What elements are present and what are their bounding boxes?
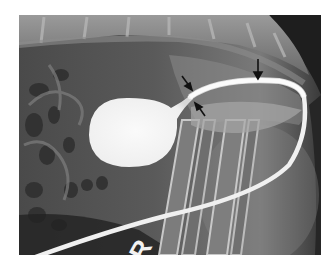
radiograph-image: R [19, 15, 321, 255]
radiograph-graphic [19, 15, 321, 255]
